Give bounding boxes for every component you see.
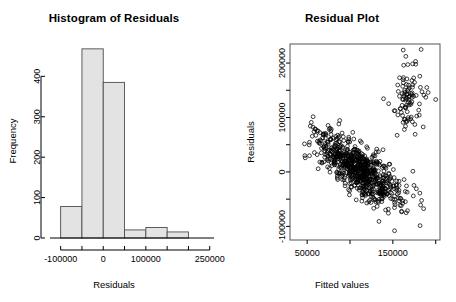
scatter-point bbox=[415, 114, 419, 118]
scatter-point bbox=[401, 84, 405, 88]
scatter-point bbox=[390, 191, 394, 195]
scatter-point bbox=[303, 156, 307, 160]
histogram-y-tick-label: 400 bbox=[32, 69, 42, 84]
histogram-bar bbox=[146, 227, 167, 238]
scatter-point bbox=[314, 133, 318, 137]
scatter-point bbox=[412, 183, 416, 187]
scatter-point bbox=[413, 132, 417, 136]
histogram-bars bbox=[61, 49, 189, 238]
scatter-point bbox=[418, 191, 422, 195]
scatter-point bbox=[434, 98, 438, 102]
histogram-panel: Histogram of Residuals -1000000100000250… bbox=[0, 0, 228, 302]
histogram-y-tick-label: 300 bbox=[32, 109, 42, 124]
scatter-point bbox=[351, 130, 355, 134]
scatter-point bbox=[419, 85, 423, 89]
scatter-point bbox=[377, 220, 381, 224]
scatter-point bbox=[352, 137, 356, 141]
scatter-point bbox=[315, 153, 319, 157]
residual-plot-panel: Residual Plot 50000150000-10000001000002… bbox=[228, 0, 456, 302]
scatter-point bbox=[398, 94, 402, 98]
scatter-point bbox=[397, 179, 401, 183]
scatter-y-tick-label: 200000 bbox=[277, 48, 287, 78]
scatter-point bbox=[410, 120, 414, 124]
residual-plot-canvas: 50000150000-1000000100000200000Residuals bbox=[228, 0, 456, 302]
scatter-point bbox=[420, 199, 424, 203]
scatter-point bbox=[381, 148, 385, 152]
histogram-bar bbox=[61, 206, 82, 238]
scatter-point bbox=[311, 115, 315, 119]
scatter-points bbox=[303, 48, 438, 233]
scatter-point bbox=[418, 102, 422, 106]
histogram-y-tick-label: 0 bbox=[32, 235, 42, 240]
scatter-y-tick-label: 100000 bbox=[277, 102, 287, 132]
histogram-y-tick-label: 200 bbox=[32, 150, 42, 165]
scatter-point bbox=[395, 133, 399, 137]
scatter-point bbox=[375, 205, 379, 209]
scatter-point bbox=[414, 187, 418, 191]
scatter-point bbox=[319, 151, 323, 155]
scatter-point bbox=[340, 131, 344, 135]
scatter-point bbox=[396, 83, 400, 87]
scatter-point bbox=[343, 184, 347, 188]
scatter-point bbox=[348, 193, 352, 197]
scatter-point bbox=[382, 97, 386, 101]
scatter-point bbox=[418, 224, 422, 228]
scatter-point bbox=[387, 211, 391, 215]
scatter-y-tick-label: 0 bbox=[277, 169, 287, 174]
scatter-point bbox=[342, 139, 346, 143]
scatter-point bbox=[405, 77, 409, 81]
scatter-point bbox=[401, 48, 405, 52]
histogram-x-tick-label: 100000 bbox=[131, 254, 161, 264]
scatter-point bbox=[328, 170, 332, 174]
histogram-ylabel: Frequency bbox=[7, 118, 18, 163]
histogram-canvas: -10000001000002500000100200300400Frequen… bbox=[0, 0, 228, 302]
scatter-point bbox=[405, 184, 409, 188]
scatter-point bbox=[396, 113, 400, 117]
scatter-point bbox=[392, 176, 396, 180]
scatter-point bbox=[307, 143, 311, 147]
scatter-point bbox=[426, 91, 430, 95]
histogram-bar bbox=[125, 230, 146, 238]
scatter-point bbox=[406, 63, 410, 67]
scatter-point bbox=[425, 86, 429, 90]
scatter-point bbox=[396, 90, 400, 94]
scatter-point bbox=[308, 154, 312, 158]
scatter-point bbox=[405, 110, 409, 114]
scatter-point bbox=[404, 54, 408, 58]
scatter-point bbox=[337, 122, 341, 126]
scatter-point bbox=[418, 74, 422, 78]
histogram-xlabel: Residuals bbox=[93, 279, 135, 290]
scatter-point bbox=[338, 119, 342, 123]
scatter-point bbox=[354, 198, 358, 202]
scatter-point bbox=[310, 134, 314, 138]
scatter-point bbox=[402, 63, 406, 67]
scatter-point bbox=[411, 169, 415, 173]
scatter-point bbox=[303, 142, 307, 146]
scatter-y-tick-label: -100000 bbox=[277, 210, 287, 243]
scatter-point bbox=[391, 168, 395, 172]
scatter-point bbox=[393, 229, 397, 233]
scatter-x-tick-label: 150000 bbox=[378, 248, 408, 258]
scatter-point bbox=[402, 178, 406, 182]
scatter-ylabel: Residuals bbox=[245, 121, 256, 163]
histogram-bar bbox=[103, 82, 124, 238]
scatter-point bbox=[421, 125, 425, 129]
scatter-point bbox=[422, 207, 426, 211]
scatter-point bbox=[329, 133, 333, 137]
scatter-point bbox=[390, 179, 394, 183]
scatter-frame bbox=[290, 44, 440, 240]
scatter-point bbox=[419, 48, 423, 52]
scatter-point bbox=[387, 102, 391, 106]
scatter-point bbox=[341, 135, 345, 139]
scatter-point bbox=[309, 120, 313, 124]
scatter-x-tick-label: 50000 bbox=[295, 248, 320, 258]
histogram-y-tick-label: 100 bbox=[32, 190, 42, 205]
scatter-point bbox=[417, 108, 421, 112]
histogram-x-tick-label: 0 bbox=[101, 254, 106, 264]
scatter-point bbox=[411, 194, 415, 198]
scatter-point bbox=[348, 189, 352, 193]
scatter-point bbox=[316, 167, 320, 171]
scatter-point bbox=[326, 124, 330, 128]
histogram-bar bbox=[82, 49, 103, 238]
histogram-x-tick-label: -100000 bbox=[44, 254, 77, 264]
